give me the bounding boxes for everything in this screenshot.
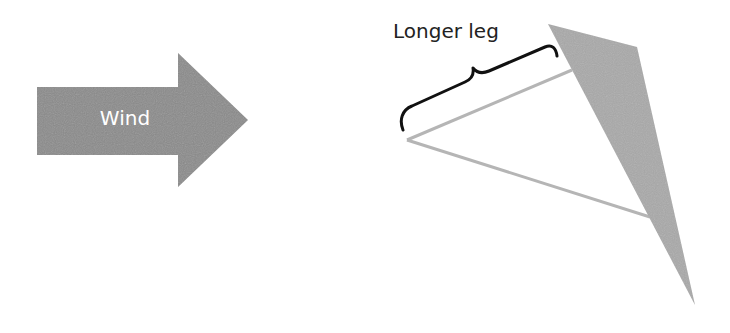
wind-arrow: Wind — [37, 53, 248, 187]
kite-wind-diagram: Wind Longer leg — [0, 0, 730, 333]
longer-leg-label: Longer leg — [393, 19, 499, 43]
curly-brace-icon — [401, 46, 557, 130]
shorter-leg-line — [407, 140, 650, 217]
kite-sail — [548, 24, 695, 305]
wind-label: Wind — [100, 106, 150, 130]
longer-leg-line — [407, 70, 572, 140]
